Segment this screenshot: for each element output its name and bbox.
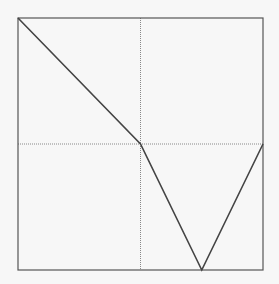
line-chart [0,0,279,284]
